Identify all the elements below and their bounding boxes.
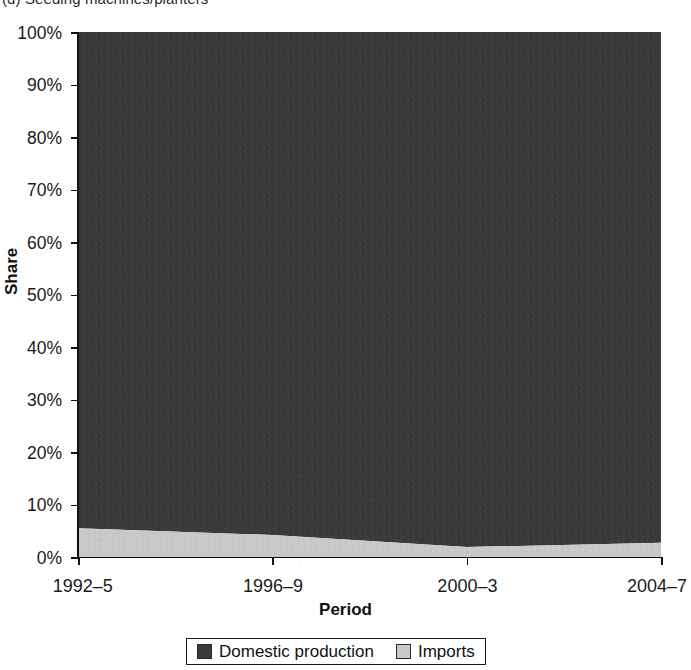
y-tick-label: 70%: [27, 180, 62, 201]
y-tick-label: 100%: [17, 22, 62, 43]
y-tick-100%: 100%: [71, 32, 78, 34]
legend-entry-imports[interactable]: Imports: [396, 642, 475, 662]
x-tick-label: 1996–9: [243, 576, 303, 597]
y-tick-label: 20%: [27, 442, 62, 463]
y-tick-label: 10%: [27, 495, 62, 516]
y-axis-title: Share: [2, 248, 22, 295]
y-tick-90%: 90%: [71, 85, 78, 87]
stacked-area-series: [78, 32, 661, 557]
y-tick-60%: 60%: [71, 242, 78, 244]
y-tick-label: 60%: [27, 232, 62, 253]
x-tick-label: 2000–3: [437, 576, 497, 597]
y-tick-20%: 20%: [71, 452, 78, 454]
x-tick-label: 2004–7: [627, 576, 687, 597]
y-tick-label: 80%: [27, 127, 62, 148]
y-tick-40%: 40%: [71, 347, 78, 349]
chart-title: (d) Seeding machines/planters: [2, 0, 208, 7]
x-tick-label: 1992–5: [53, 576, 113, 597]
plot-area: 0%10%20%30%40%50%60%70%80%90%100% 1992–5…: [78, 32, 661, 557]
legend-label: Domestic production: [219, 642, 374, 662]
legend-swatch-icon: [197, 644, 212, 659]
y-tick-label: 50%: [27, 285, 62, 306]
legend-label: Imports: [418, 642, 475, 662]
x-axis-line: [77, 557, 661, 559]
y-tick-label: 40%: [27, 337, 62, 358]
legend-swatch-icon: [396, 644, 411, 659]
x-tick-1996–9: 1996–9: [272, 557, 274, 565]
y-tick-30%: 30%: [71, 400, 78, 402]
y-tick-label: 0%: [37, 547, 62, 568]
y-tick-label: 90%: [27, 75, 62, 96]
chart-legend: Domestic productionImports: [186, 638, 486, 665]
y-tick-80%: 80%: [71, 137, 78, 139]
x-tick-2000–3: 2000–3: [467, 557, 469, 565]
x-axis-title: Period: [0, 600, 691, 620]
x-tick-1992–5: 1992–5: [78, 557, 80, 565]
y-tick-10%: 10%: [71, 505, 78, 507]
y-tick-70%: 70%: [71, 190, 78, 192]
legend-entry-domestic-production[interactable]: Domestic production: [197, 642, 374, 662]
y-tick-0%: 0%: [71, 557, 78, 559]
area-domestic-production: [78, 32, 661, 547]
x-tick-2004–7: 2004–7: [661, 557, 663, 565]
y-tick-label: 30%: [27, 390, 62, 411]
y-tick-50%: 50%: [71, 295, 78, 297]
